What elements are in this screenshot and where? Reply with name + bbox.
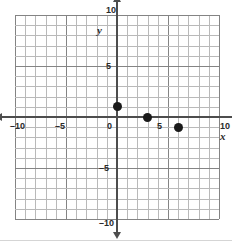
data-point (113, 102, 122, 111)
coordinate-plane-figure: –10–50510–10–5510 x y (0, 0, 232, 241)
data-point (143, 113, 152, 122)
data-point (174, 123, 183, 132)
plot-area: –10–50510–10–5510 x y (15, 15, 219, 219)
x-axis-left-arrowhead (0, 113, 2, 121)
y-tick-label: 10 (106, 5, 116, 15)
y-axis-up-arrowhead (113, 0, 121, 2)
x-axis-label: x (220, 131, 226, 142)
data-points (15, 15, 219, 219)
y-axis-down-arrowhead (113, 232, 121, 239)
y-tick-label: –10 (99, 218, 114, 228)
